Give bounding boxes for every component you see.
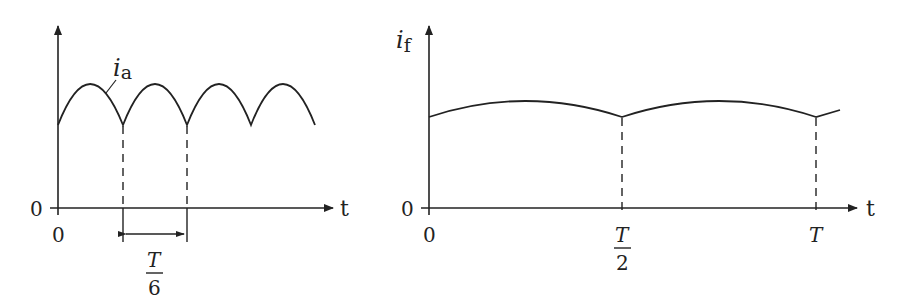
left-origin-x-label: 0 xyxy=(52,223,65,247)
right-tick-half-denominator: 2 xyxy=(616,251,629,275)
left-x-axis-label: t xyxy=(340,196,349,221)
diagram-canvas: ia 0 0 t T 6 if 0 0 t T 2 T xyxy=(0,0,906,308)
right-tick-half-numerator: T xyxy=(615,223,630,247)
right-y-axis-label: if xyxy=(396,26,413,56)
left-interval-numerator: T xyxy=(147,248,162,272)
right-plot: if 0 0 t T 2 T xyxy=(396,26,875,275)
right-if-curve xyxy=(429,101,840,117)
right-origin-y-label: 0 xyxy=(401,197,414,221)
left-origin-y-label: 0 xyxy=(30,197,43,221)
left-interval-denominator: 6 xyxy=(148,276,161,300)
right-tick-period-label: T xyxy=(809,223,824,247)
right-origin-x-label: 0 xyxy=(423,223,436,247)
left-ia-curve xyxy=(58,84,315,125)
left-plot: ia 0 0 t T 6 xyxy=(30,26,349,300)
left-curve-label: ia xyxy=(113,54,132,83)
right-x-axis-label: t xyxy=(866,196,875,221)
